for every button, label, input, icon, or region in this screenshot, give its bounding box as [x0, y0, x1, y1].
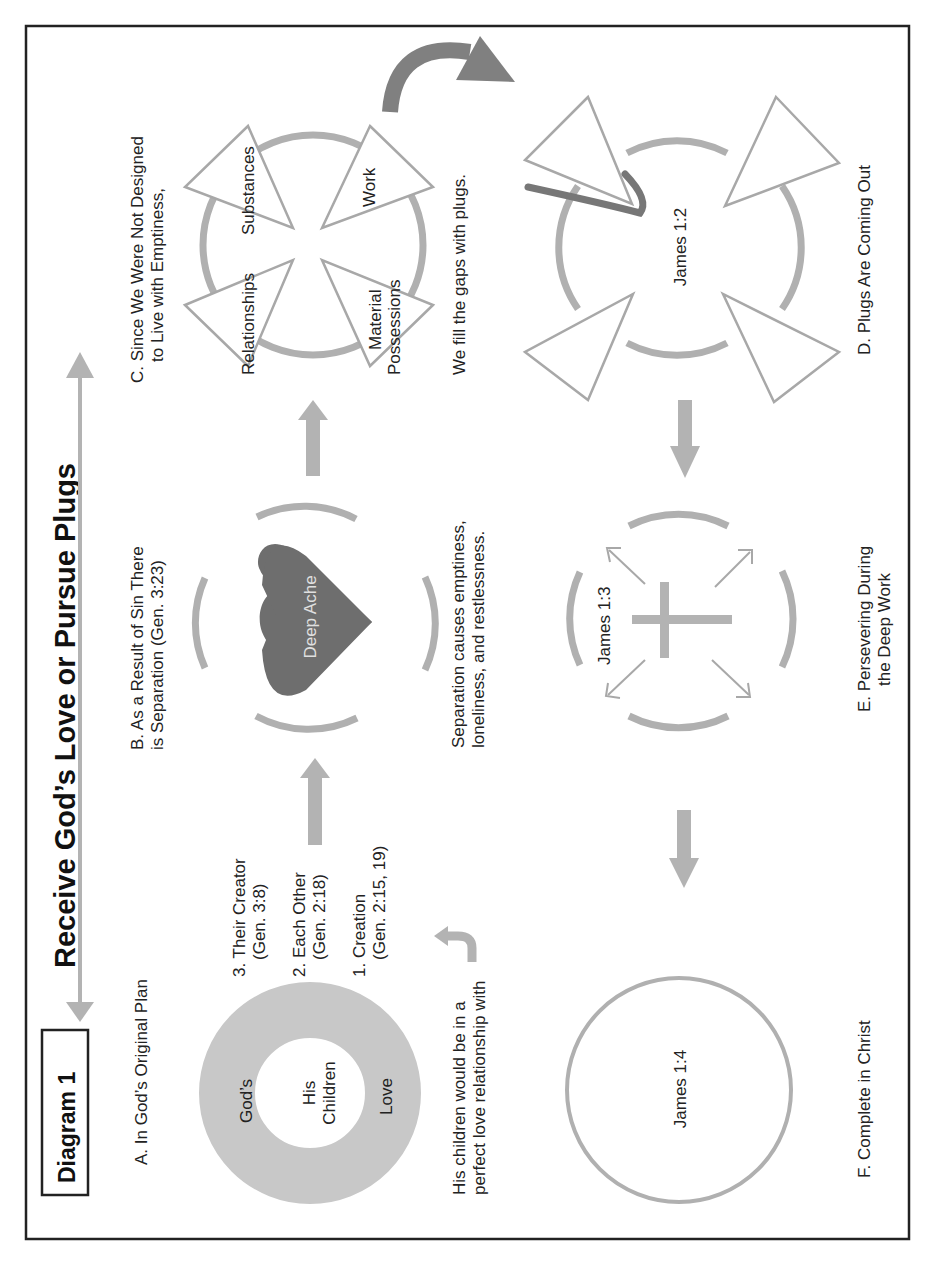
section-a-caption-2: perfect love relationship with	[470, 980, 489, 1195]
cross-icon	[632, 582, 732, 658]
ring-text-gods: God’s	[237, 1079, 256, 1123]
list-item-2: 2. Each Other	[290, 872, 309, 977]
plug-label-possessions: Possessions	[385, 280, 404, 375]
diagram-label: Diagram 1	[54, 1072, 80, 1183]
center-text-children: Children	[320, 1061, 339, 1124]
section-e-label-1: E. Persevering During	[855, 546, 874, 712]
diagram-canvas: Diagram 1 Receive God’s Love or Pursue P…	[0, 0, 944, 1263]
hook-arrow-icon	[434, 926, 472, 962]
plug-label-substances: Substances	[239, 146, 258, 235]
section-c-caption: We fill the gaps with plugs.	[450, 174, 469, 375]
section-f-label: F. Complete in Christ	[855, 1020, 874, 1178]
list-item-3: 3. Their Creator	[230, 858, 249, 977]
section-e-center-text: James 1:3	[595, 587, 614, 665]
relationship-list: 3. Their Creator (Gen. 3:8) 2. Each Othe…	[230, 846, 389, 977]
section-a-label: A. In God’s Original Plan	[132, 979, 151, 1165]
section-f-center-text: James 1:4	[671, 1050, 690, 1128]
section-e-label-2: the Deep Work	[875, 572, 894, 686]
list-item-1: 1. Creation	[350, 894, 369, 977]
center-text-his: His	[300, 1081, 319, 1106]
list-item-1-ref: (Gen. 2:15, 19)	[370, 846, 389, 960]
ring-text-love: Love	[377, 1078, 396, 1115]
section-a-caption-1: His children would be in a	[450, 1001, 469, 1195]
plug-label-relationships: Relationships	[239, 273, 258, 375]
heart-text: Deep Ache	[301, 575, 320, 658]
list-item-3-ref: (Gen. 3:8)	[250, 883, 269, 960]
arrow-down-d-to-e-icon	[670, 400, 700, 478]
section-b-caption-2: loneliness, and restlessness.	[469, 531, 488, 748]
plug-label-work: Work	[360, 167, 379, 207]
curved-arrow-c-to-d-icon	[390, 36, 515, 112]
section-b-label-1: B. As a Result of Sin There	[128, 546, 147, 750]
section-c-label-2: to Live with Emptiness,	[148, 188, 167, 362]
arrow-up-b-to-c-icon	[298, 400, 328, 476]
arrow-down-e-to-f-icon	[669, 810, 699, 888]
section-d-label: D. Plugs Are Coming Out	[855, 165, 874, 355]
section-b-caption-1: Separation causes emptiness,	[449, 520, 468, 748]
plug-label-material: Material	[366, 290, 385, 350]
list-item-2-ref: (Gen. 2:18)	[310, 874, 329, 960]
section-b-label-2: is Separation (Gen. 3:23)	[148, 560, 167, 750]
section-d-center-text: James 1:2	[671, 208, 690, 286]
page-title: Receive God’s Love or Pursue Plugs	[49, 463, 81, 968]
section-c-label-1: C. Since We Were Not Designed	[128, 136, 147, 383]
arrow-up-a-to-b-icon	[300, 758, 330, 845]
